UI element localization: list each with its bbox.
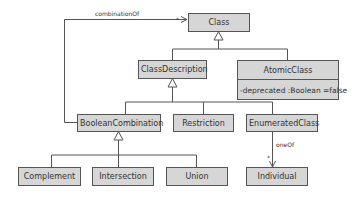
uml-diagram-canvas: combinationOf * oneOf * Class ClassDescr… [0,0,357,197]
class-name: BooleanCombination [80,119,163,128]
class-name: Individual [258,172,297,181]
class-box-individual[interactable]: Individual [246,167,308,186]
class-name: Complement [24,172,75,181]
class-name: AtomicClass [238,61,338,80]
class-name: Restriction [182,119,225,128]
class-attribute: -deprecated :Boolean =false [238,80,338,100]
class-name: Union [185,172,208,181]
class-name: Class [208,18,229,27]
class-box-union[interactable]: Union [166,167,228,186]
class-box-intersection[interactable]: Intersection [92,167,154,186]
association-label-one-of: oneOf [276,141,294,148]
association-label-combination-of: combinationOf [95,10,139,17]
class-name: EnumeratedClass [249,119,319,128]
class-box-enumerated-class[interactable]: EnumeratedClass [246,114,318,132]
multiplicity-combination-of: * [176,16,179,23]
class-name: Intersection [99,172,147,181]
class-box-restriction[interactable]: Restriction [173,114,234,132]
class-name: ClassDescription [141,65,208,74]
class-box-boolean-combination[interactable]: BooleanCombination [77,114,161,132]
class-box-atomic-class[interactable]: AtomicClass -deprecated :Boolean =false [237,60,339,100]
class-box-complement[interactable]: Complement [18,167,81,186]
class-box-class[interactable]: Class [188,13,250,32]
multiplicity-one-of: * [267,154,270,161]
class-box-class-description[interactable]: ClassDescription [138,60,207,79]
